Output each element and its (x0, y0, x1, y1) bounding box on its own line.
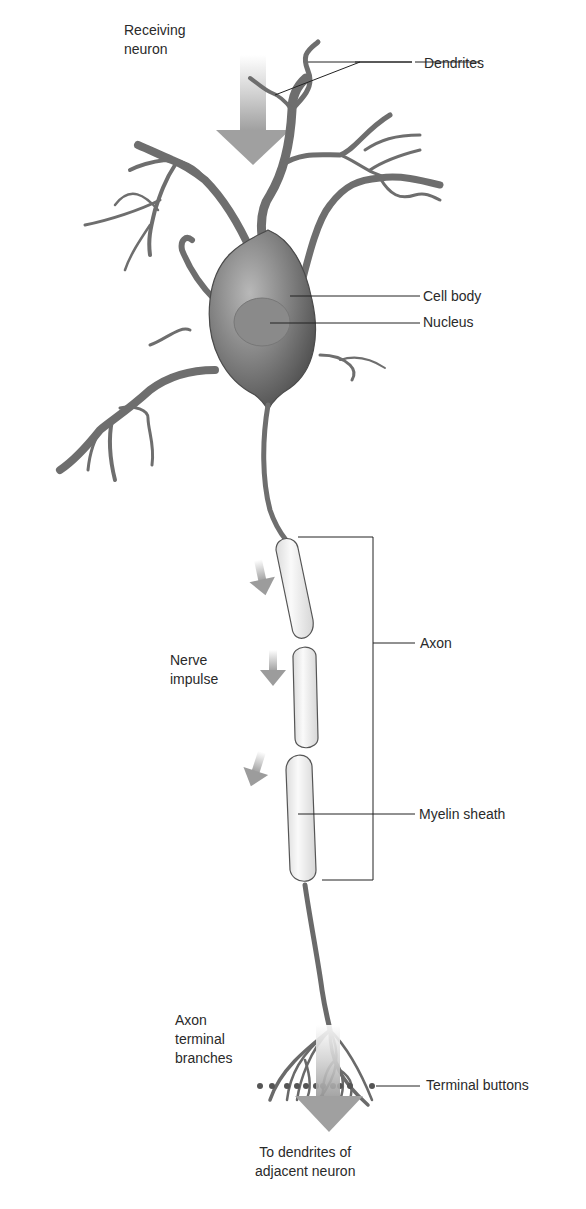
cell-body (209, 230, 315, 410)
nerve-impulse-arrows (239, 557, 286, 790)
label-nerve-impulse: Nerveimpulse (170, 651, 218, 689)
outgoing-arrow-icon (295, 1025, 363, 1132)
nucleus (234, 298, 290, 346)
label-receiving-neuron: Receivingneuron (124, 21, 185, 59)
axon-proximal (264, 405, 286, 540)
receiving-arrow-icon (216, 55, 290, 165)
label-dendrites: Dendrites (424, 54, 484, 73)
label-axon-terminal-branches: Axonterminalbranches (175, 1011, 233, 1068)
label-axon: Axon (420, 634, 452, 653)
label-to-dendrites: To dendrites ofadjacent neuron (255, 1143, 355, 1181)
myelin-sheath (276, 538, 318, 881)
label-myelin-sheath: Myelin sheath (419, 805, 505, 824)
label-terminal-buttons: Terminal buttons (426, 1076, 529, 1095)
label-cell-body: Cell body (423, 287, 481, 306)
label-nucleus: Nucleus (423, 313, 474, 332)
neuron-diagram (0, 0, 586, 1209)
